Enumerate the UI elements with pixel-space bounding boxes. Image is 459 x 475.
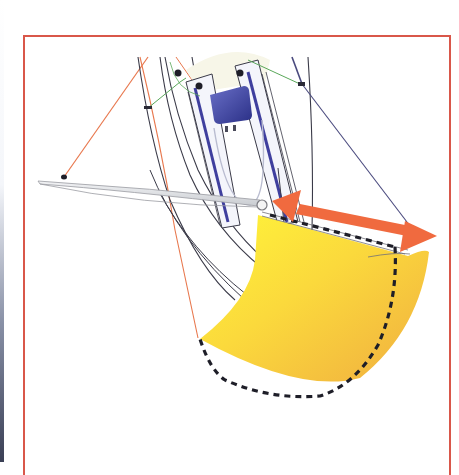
orange-shroud-line bbox=[64, 57, 198, 338]
sail bbox=[200, 215, 429, 382]
